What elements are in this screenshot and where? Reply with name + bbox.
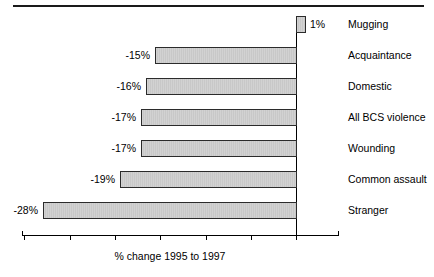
- bar-value-stranger: -28%: [0, 203, 38, 218]
- bar-value-domestic: -16%: [86, 79, 141, 94]
- bar-row: -17% Wounding: [0, 140, 434, 158]
- x-axis-title: % change 1995 to 1997: [0, 250, 340, 262]
- bar-row: -28% Stranger: [0, 202, 434, 220]
- bar-stranger: [43, 202, 297, 219]
- bar-row: -16% Domestic: [0, 78, 434, 96]
- bar-wounding: [141, 140, 297, 157]
- bar-domestic: [146, 78, 297, 95]
- category-label-wounding: Wounding: [348, 140, 395, 157]
- bar-acquaintance: [155, 47, 297, 64]
- category-label-stranger: Stranger: [348, 202, 388, 219]
- category-label-acquaintance: Acquaintance: [348, 47, 412, 64]
- x-axis-tick: [251, 235, 252, 240]
- category-label-all-bcs-violence: All BCS violence: [348, 109, 426, 126]
- x-axis-tick: [296, 235, 297, 240]
- bar-value-all-bcs-violence: -17%: [81, 110, 136, 125]
- bar-value-mugging: 1%: [310, 17, 325, 32]
- x-axis-tick: [24, 235, 25, 240]
- bar-row: -15% Acquaintance: [0, 47, 434, 65]
- x-axis-left-cap: [22, 231, 23, 236]
- bar-value-acquaintance: -15%: [95, 48, 150, 63]
- category-label-common-assault: Common assault: [348, 171, 427, 188]
- bar-common-assault: [120, 171, 297, 188]
- bar-mugging: [296, 16, 306, 33]
- bar-row: -17% All BCS violence: [0, 109, 434, 127]
- bar-row: -19% Common assault: [0, 171, 434, 189]
- bar-chart-figure: 1% Mugging -15% Acquaintance -16% Domest…: [0, 0, 434, 277]
- bar-value-common-assault: -19%: [60, 172, 115, 187]
- x-axis-tick: [206, 235, 207, 240]
- bar-all-bcs-violence: [141, 109, 297, 126]
- x-axis-tick: [115, 235, 116, 240]
- plot-area: 1% Mugging -15% Acquaintance -16% Domest…: [0, 0, 434, 277]
- x-axis-right-cap: [338, 231, 339, 236]
- bar-row: 1% Mugging: [0, 16, 434, 34]
- category-label-domestic: Domestic: [348, 78, 392, 95]
- x-axis-tick: [70, 235, 71, 240]
- category-label-mugging: Mugging: [348, 16, 388, 33]
- bar-value-wounding: -17%: [81, 141, 136, 156]
- x-axis-tick: [160, 235, 161, 240]
